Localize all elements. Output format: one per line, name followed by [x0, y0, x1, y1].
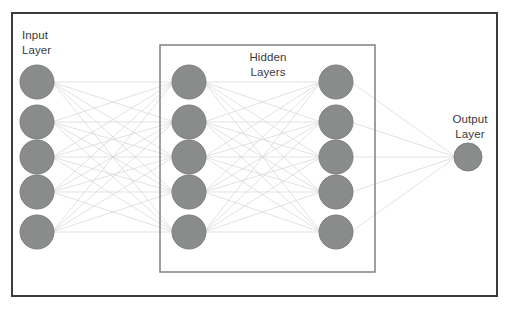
connection-line: [351, 82, 456, 157]
node-hidden-2-2: [319, 105, 353, 139]
node-input-1: [20, 65, 54, 99]
node-hidden-1-3: [172, 140, 206, 174]
node-input-3: [20, 140, 54, 174]
node-hidden-1-4: [172, 175, 206, 209]
node-hidden-1-5: [172, 215, 206, 249]
node-hidden-2-4: [319, 175, 353, 209]
connection-line: [351, 122, 456, 157]
node-hidden-1-2: [172, 105, 206, 139]
neural-network-diagram: [0, 0, 510, 312]
node-input-4: [20, 175, 54, 209]
input-layer-label: Input Layer: [22, 28, 51, 57]
output-layer-label: Output Layer: [445, 112, 495, 141]
connection-line: [351, 157, 456, 232]
node-hidden-1-1: [172, 65, 206, 99]
diagram-canvas: Input Layer Hidden Layers Output Layer: [0, 0, 510, 312]
hidden-layers-label: Hidden Layers: [228, 50, 308, 79]
connection-line: [351, 157, 456, 192]
node-input-5: [20, 215, 54, 249]
node-hidden-2-5: [319, 215, 353, 249]
node-hidden-2-1: [319, 65, 353, 99]
node-output-1: [454, 143, 482, 171]
connection-edges: [52, 82, 456, 232]
node-input-2: [20, 105, 54, 139]
node-hidden-2-3: [319, 140, 353, 174]
